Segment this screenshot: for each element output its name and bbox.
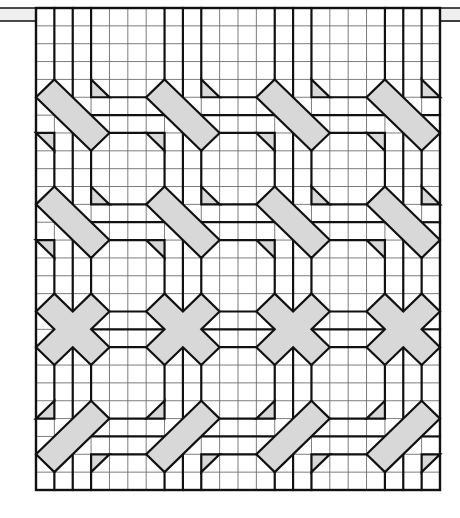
quilt-diagram [0, 0, 460, 518]
